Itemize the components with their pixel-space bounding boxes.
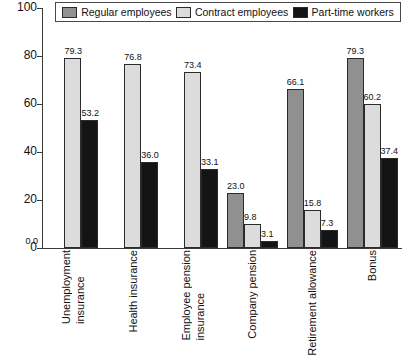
bar-slot: 33.1 [201, 8, 218, 248]
bar-value-label: 33.1 [201, 157, 219, 167]
bar-slot: 60.2 [364, 8, 381, 248]
bar-groups: 0.079.353.20.076.836.00.073.433.123.09.8… [43, 8, 402, 248]
y-tick-label: 60 [24, 96, 37, 110]
bar [381, 158, 398, 248]
y-tick-label: 100 [17, 0, 37, 14]
x-axis-label-cell: Bonus [342, 250, 402, 354]
bar [184, 72, 201, 248]
bar-group-bars: 23.09.83.1 [222, 8, 282, 248]
x-axis-label-cell: Unemploymentinsurance [43, 250, 103, 354]
x-axis-label-line: Company pension [246, 250, 259, 339]
bar [347, 58, 364, 248]
bar-slot: 0.0 [107, 8, 124, 248]
bar [201, 169, 218, 248]
bar-group-bars: 79.360.237.4 [342, 8, 402, 248]
y-tick-mark [37, 152, 42, 153]
bar-group: 23.09.83.1 [222, 8, 282, 248]
bar [64, 58, 81, 248]
x-axis-label: Company pension [246, 250, 259, 339]
x-axis-label: Bonus [366, 250, 379, 281]
bar-group-bars: 0.073.433.1 [163, 8, 223, 248]
x-axis-label-cell: Retirement allowance [282, 250, 342, 354]
x-axis-label-line: Bonus [366, 250, 379, 281]
bar-group-bars: 0.079.353.2 [43, 8, 103, 248]
bar-group: 66.115.87.3 [282, 8, 342, 248]
y-tick-mark [37, 56, 42, 57]
x-axis-line [42, 248, 402, 249]
bar-group: 0.079.353.2 [43, 8, 103, 248]
x-axis-label: Health insurance [126, 250, 139, 333]
bar-chart: Regular employeesContract employeesPart-… [0, 0, 405, 356]
y-tick-mark [37, 104, 42, 105]
bar-slot: 66.1 [287, 8, 304, 248]
bar-value-label: 0.0 [25, 236, 38, 246]
x-axis-label: Unemploymentinsurance [59, 250, 86, 324]
bar [364, 104, 381, 248]
bar-value-label: 76.8 [124, 52, 142, 62]
bar-slot: 15.8 [304, 8, 321, 248]
bar-value-label: 73.4 [184, 60, 202, 70]
bar-value-label: 9.8 [244, 212, 257, 222]
y-tick-label: 80 [24, 48, 37, 62]
bar-group: 79.360.237.4 [342, 8, 402, 248]
bar [244, 224, 261, 248]
y-tick-label: 40 [24, 144, 37, 158]
bar-slot: 37.4 [381, 8, 398, 248]
x-axis-label: Retirement allowance [306, 250, 319, 356]
plot-area: 020406080100 0.079.353.20.076.836.00.073… [42, 8, 402, 248]
bar [287, 89, 304, 248]
x-axis-label-cell: Company pension [222, 250, 282, 354]
y-tick-label: 20 [24, 192, 37, 206]
bar [321, 230, 338, 248]
bar-slot: 9.8 [244, 8, 261, 248]
bar-slot: 3.1 [261, 8, 278, 248]
bar [124, 64, 141, 248]
y-tick-mark [37, 248, 42, 249]
bar [261, 241, 278, 248]
x-axis-label-line: Employee pension [179, 250, 192, 341]
x-axis-label: Employee pensioninsurance [179, 250, 206, 341]
bar-slot: 79.3 [64, 8, 81, 248]
bar-slot: 79.3 [347, 8, 364, 248]
bar-slot: 0.0 [167, 8, 184, 248]
x-axis-labels: UnemploymentinsuranceHealth insuranceEmp… [43, 250, 402, 354]
bar-group: 0.073.433.1 [163, 8, 223, 248]
bar-group-bars: 66.115.87.3 [282, 8, 342, 248]
bar-slot: 0.0 [47, 8, 64, 248]
x-axis-label-line: insurance [193, 250, 206, 341]
x-axis-label-line: insurance [73, 250, 86, 324]
bar-value-label: 79.3 [64, 46, 82, 56]
x-axis-label-line: Unemployment [59, 250, 72, 324]
bar-value-label: 0.0 [145, 236, 158, 246]
bar-value-label: 53.2 [81, 108, 99, 118]
bar-value-label: 79.3 [347, 46, 365, 56]
bar-slot: 53.2 [81, 8, 98, 248]
bar-value-label: 0.0 [85, 236, 98, 246]
bar-slot: 73.4 [184, 8, 201, 248]
x-axis-label-line: Health insurance [126, 250, 139, 333]
y-tick-mark [37, 200, 42, 201]
bar [81, 120, 98, 248]
bar-value-label: 36.0 [141, 150, 159, 160]
bar-value-label: 37.4 [381, 146, 399, 156]
bar-slot: 36.0 [141, 8, 158, 248]
bar-slot: 7.3 [321, 8, 338, 248]
bar-group: 0.076.836.0 [103, 8, 163, 248]
y-tick-mark [37, 8, 42, 9]
x-axis-label-cell: Employee pensioninsurance [163, 250, 223, 354]
bar-slot: 76.8 [124, 8, 141, 248]
bar-group-bars: 0.076.836.0 [103, 8, 163, 248]
bar-value-label: 23.0 [227, 181, 245, 191]
bar-slot: 23.0 [227, 8, 244, 248]
x-axis-label-line: Retirement allowance [306, 250, 319, 356]
bar-value-label: 66.1 [287, 77, 305, 87]
bar-value-label: 3.1 [261, 229, 274, 239]
bar [304, 210, 321, 248]
bar [227, 193, 244, 248]
bar-value-label: 15.8 [304, 198, 322, 208]
bar-value-label: 60.2 [364, 92, 382, 102]
x-axis-label-cell: Health insurance [103, 250, 163, 354]
bar-value-label: 7.3 [321, 218, 334, 228]
